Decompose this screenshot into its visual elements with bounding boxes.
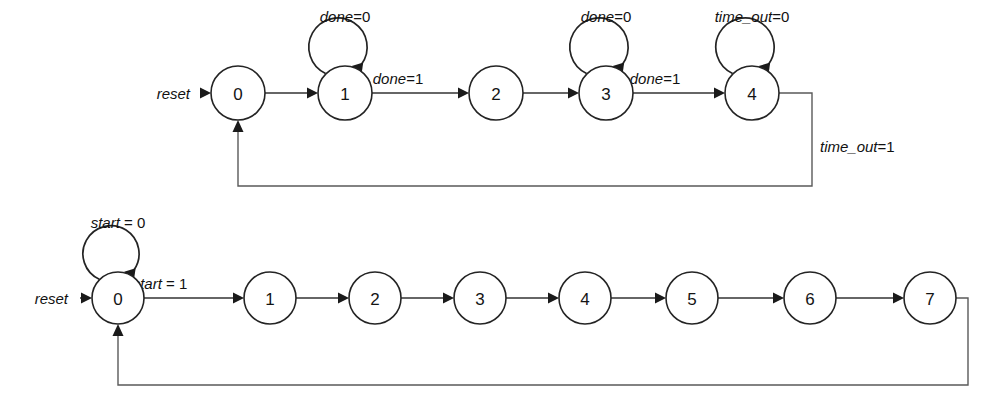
state-node-1: 1 <box>244 272 296 324</box>
transition-arrow-icon <box>307 88 318 99</box>
state-label: 3 <box>601 85 610 104</box>
transition-b3-to-b4 <box>506 293 559 304</box>
state-label: 6 <box>805 290 814 309</box>
state-node-2: 2 <box>349 272 401 324</box>
feedback-label-t4-var: time_out <box>820 138 878 155</box>
transition-label-t1-t2: done=1 <box>373 70 423 87</box>
state-node-3: 3 <box>454 272 506 324</box>
feedback-arrow-icon <box>233 120 244 132</box>
feedback-arrow-icon <box>113 324 124 336</box>
transition-arrow-icon <box>568 88 579 99</box>
transition-t0-to-t1 <box>265 88 318 99</box>
state-label: 3 <box>475 290 484 309</box>
transition-label-b0-b1-value: = 1 <box>162 275 187 292</box>
transition-b4-to-b5 <box>611 293 666 304</box>
transition-arrow-icon <box>233 293 244 304</box>
self-loop-label-t4: time_out=0 <box>715 8 790 25</box>
state-label: 5 <box>687 290 696 309</box>
transition-arrow-icon <box>458 88 469 99</box>
transition-arrow-icon <box>548 293 559 304</box>
state-label: 0 <box>233 85 242 104</box>
transition-label-t3-t4-var: done <box>630 70 663 87</box>
feedback-path-t4-to-t0 <box>233 93 813 186</box>
state-node-4: 4 <box>725 66 779 120</box>
state-label: 4 <box>580 290 589 309</box>
self-loop-label-t1-var: done <box>320 8 353 25</box>
feedback-line <box>118 298 968 385</box>
state-node-0: 0 <box>92 272 144 324</box>
transition-arrow-icon <box>893 293 904 304</box>
feedback-path-b7-to-b0 <box>113 298 969 385</box>
reset-entry-controller-fsm: reset <box>157 85 211 102</box>
fsm-group-counter-fsm: start = 1start = 0reset01234567 <box>35 214 968 385</box>
state-node-4: 4 <box>559 272 611 324</box>
self-loop-label-t3: done=0 <box>581 8 631 25</box>
fsm-diagram-canvas: done=1done=1done=0done=0time_out=0time_o… <box>0 0 996 418</box>
reset-arrow-icon <box>200 88 211 99</box>
reset-label: reset <box>157 85 191 102</box>
fsm-group-controller-fsm: done=1done=1done=0done=0time_out=0time_o… <box>157 8 895 186</box>
state-node-0: 0 <box>211 66 265 120</box>
transition-t3-to-t4 <box>633 88 725 99</box>
self-loop-label-t4-value: =0 <box>772 8 789 25</box>
transition-b2-to-b3 <box>401 293 454 304</box>
transition-arrow-icon <box>338 293 349 304</box>
transition-t2-to-t3 <box>523 88 579 99</box>
state-label: 4 <box>747 85 756 104</box>
fsm-diagram-svg: done=1done=1done=0done=0time_out=0time_o… <box>0 0 996 418</box>
self-loop-label-t3-var: done <box>581 8 614 25</box>
state-label: 1 <box>340 85 349 104</box>
transition-b5-to-b6 <box>718 293 784 304</box>
self-loop-label-t4-var: time_out <box>715 8 773 25</box>
self-loop-label-t1: done=0 <box>320 8 370 25</box>
state-node-1: 1 <box>318 66 372 120</box>
state-label: 2 <box>491 85 500 104</box>
reset-arrow-icon <box>81 293 92 304</box>
state-node-7: 7 <box>904 272 956 324</box>
feedback-label-t4-value: =1 <box>878 138 895 155</box>
state-label: 2 <box>370 290 379 309</box>
self-loop-label-b0-var: start <box>91 214 121 231</box>
transition-b1-to-b2 <box>296 293 349 304</box>
self-loop-label-b0-value: = 0 <box>120 214 145 231</box>
reset-label: reset <box>35 290 69 307</box>
self-loop-label-t1-value: =0 <box>353 8 370 25</box>
transition-arrow-icon <box>443 293 454 304</box>
state-label: 7 <box>925 290 934 309</box>
transition-t1-to-t2 <box>372 88 469 99</box>
transition-label-t1-t2-var: done <box>373 70 406 87</box>
transition-label-t1-t2-value: =1 <box>406 70 423 87</box>
fsm-groups: done=1done=1done=0done=0time_out=0time_o… <box>35 8 968 385</box>
feedback-label-t4: time_out=1 <box>820 138 895 155</box>
transition-label-t3-t4: done=1 <box>630 70 680 87</box>
reset-entry-counter-fsm: reset <box>35 290 92 307</box>
transition-b0-to-b1 <box>144 293 244 304</box>
self-loop-label-t3-value: =0 <box>614 8 631 25</box>
self-loop-label-b0: start = 0 <box>91 214 146 231</box>
state-label: 0 <box>113 290 122 309</box>
transition-arrow-icon <box>773 293 784 304</box>
transition-b6-to-b7 <box>836 293 904 304</box>
state-node-5: 5 <box>666 272 718 324</box>
state-node-3: 3 <box>579 66 633 120</box>
state-node-2: 2 <box>469 66 523 120</box>
transition-arrow-icon <box>655 293 666 304</box>
transition-label-t3-t4-value: =1 <box>663 70 680 87</box>
transition-arrow-icon <box>714 88 725 99</box>
state-node-6: 6 <box>784 272 836 324</box>
state-label: 1 <box>265 290 274 309</box>
